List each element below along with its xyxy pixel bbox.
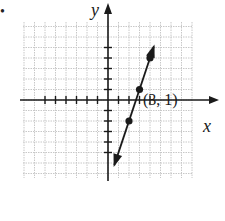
axes bbox=[20, 3, 219, 181]
point-label: (3, 1) bbox=[143, 91, 178, 109]
y-axis-label: y bbox=[89, 0, 99, 20]
coordinate-plane: x y (3, 1) bbox=[0, 0, 225, 221]
x-axis-label: x bbox=[202, 116, 211, 136]
